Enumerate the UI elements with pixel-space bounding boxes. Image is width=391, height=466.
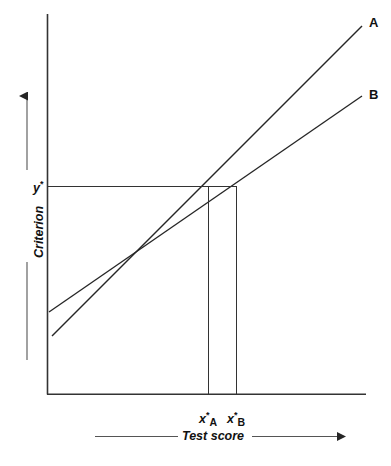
- series-label-a: A: [369, 16, 378, 29]
- regression-line-b: [49, 96, 362, 312]
- x-b-variable: x: [227, 412, 234, 426]
- chart-canvas: [0, 0, 391, 466]
- y-axis-title: Criterion: [33, 206, 46, 258]
- y-star-tick-label: y*: [33, 180, 43, 195]
- x-axis-title: Test score: [182, 430, 244, 443]
- y-star-variable: y: [33, 181, 40, 195]
- regression-line-a: [52, 26, 362, 336]
- x-a-variable: x: [199, 412, 206, 426]
- series-label-b: B: [369, 88, 378, 101]
- plot-axes: [47, 14, 366, 395]
- x-a-subscript: A: [209, 416, 217, 428]
- x-b-subscript: B: [237, 416, 245, 428]
- regression-figure: A B Criterion Test score y* x*A x*B: [0, 0, 391, 466]
- x-b-tick-label: x*B: [227, 411, 245, 428]
- y-star-asterisk: *: [40, 179, 44, 189]
- x-a-tick-label: x*A: [199, 411, 217, 428]
- figure-caption: [0, 457, 391, 466]
